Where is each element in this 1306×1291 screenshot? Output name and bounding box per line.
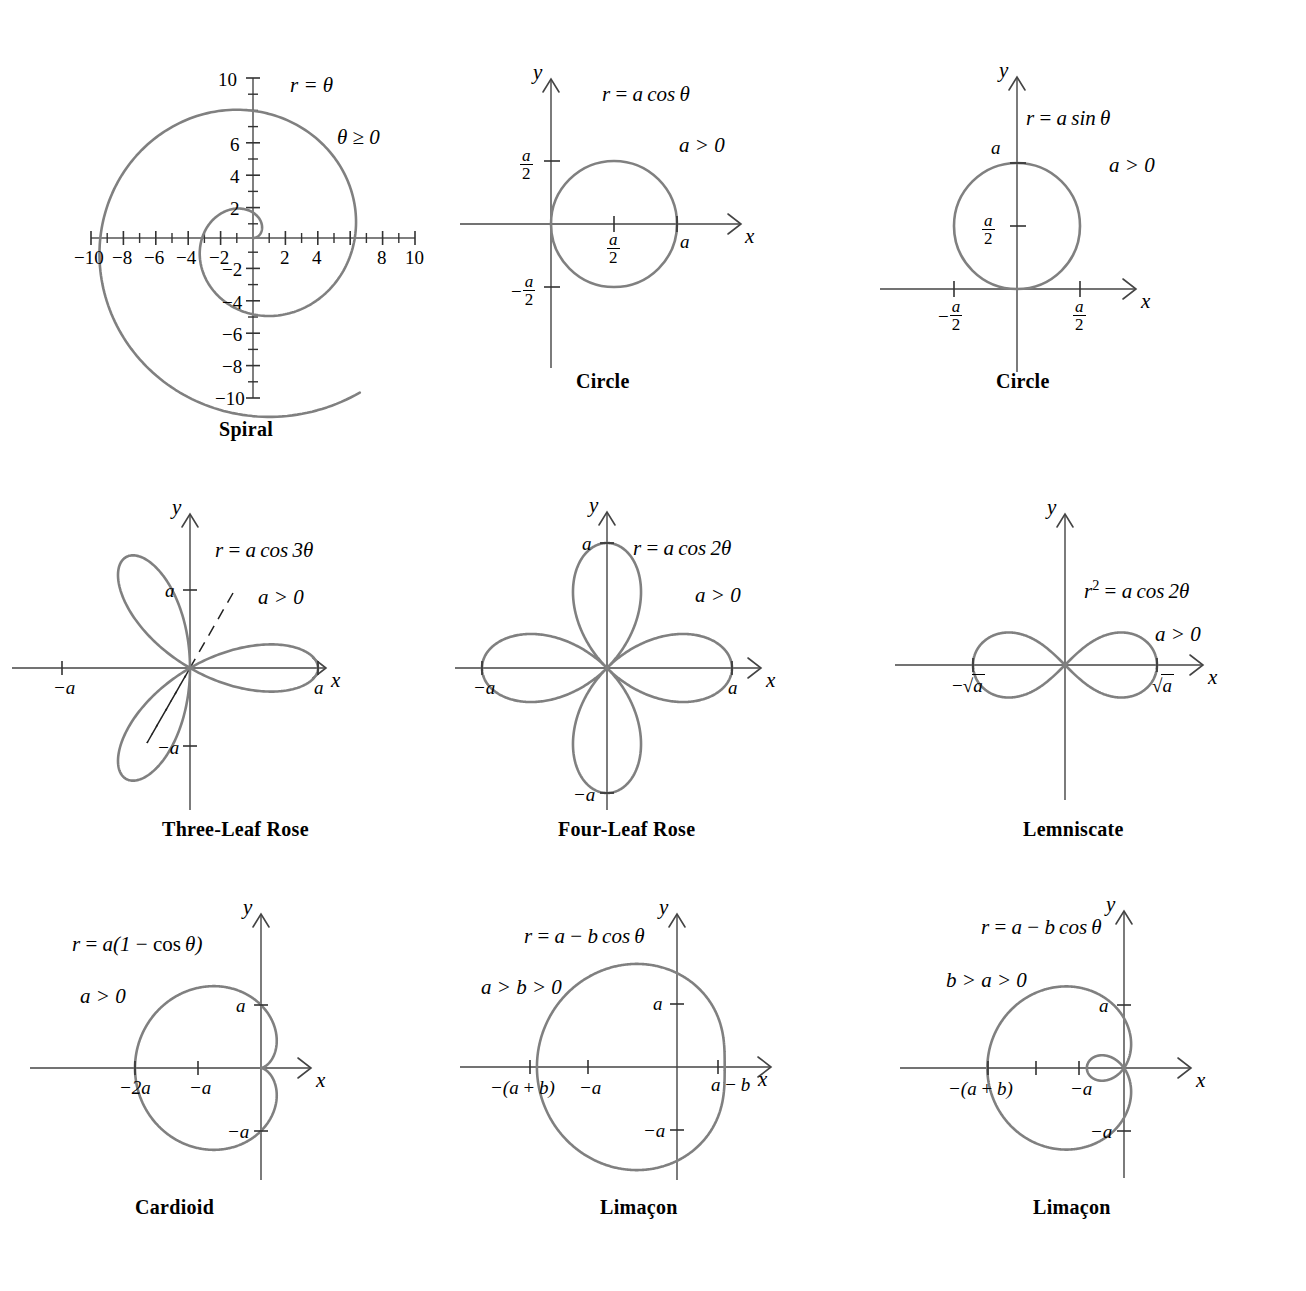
lemniscate-label-neg-sqrt-a: −√a bbox=[952, 676, 985, 695]
cardioid-label-neg-a-y: −a bbox=[227, 1122, 249, 1141]
limacon1-label-neg-a-y: −a bbox=[643, 1121, 665, 1140]
limacon1-x-axis-label: x bbox=[758, 1069, 767, 1090]
spiral-ytick--2: −2 bbox=[222, 260, 242, 279]
limacon1-condition: a > b > 0 bbox=[481, 977, 562, 998]
cardioid-label-a-y: a bbox=[236, 996, 246, 1015]
lemniscate-caption: Lemniscate bbox=[1023, 818, 1124, 841]
limacon1-label-neg-a-plus-b: −(a + b) bbox=[490, 1078, 555, 1097]
circle-sin-y-axis-label: y bbox=[999, 60, 1008, 81]
spiral-ytick-4: 4 bbox=[230, 167, 240, 186]
circle-sin-label-a-over-2: a2 bbox=[982, 213, 995, 249]
circle-cos-label-a-over-2-top: a2 bbox=[520, 148, 533, 184]
circle-sin-x-axis-label: x bbox=[1141, 291, 1150, 312]
panel-three-leaf-rose: y x a −a −a a r = a cos 3θ a > 0 Three-L… bbox=[0, 450, 440, 890]
rose3-equation: r = a cos 3θ bbox=[215, 540, 313, 561]
spiral-ytick-2: 2 bbox=[230, 199, 240, 218]
cardioid-label-neg-2a: −2a bbox=[119, 1078, 151, 1097]
lemniscate-condition: a > 0 bbox=[1155, 624, 1201, 645]
limacon1-equation: r = a − b cos θ bbox=[524, 926, 645, 947]
circle-cos-y-axis-label: y bbox=[533, 62, 542, 83]
spiral-ytick--10: −10 bbox=[215, 389, 245, 408]
panel-spiral: −10 −8 −6 −4 −2 2 4 8 10 10 6 4 2 −2 −4 … bbox=[0, 0, 440, 450]
rose3-label-neg-a-y: −a bbox=[157, 738, 179, 757]
circle-sin-label-a-top: a bbox=[991, 138, 1001, 157]
limacon2-x-axis-label: x bbox=[1196, 1070, 1205, 1091]
cardioid-plot bbox=[0, 890, 440, 1291]
cardioid-x-axis-label: x bbox=[316, 1070, 325, 1091]
cardioid-y-axis-label: y bbox=[243, 897, 252, 918]
rose4-x-axis-label: x bbox=[766, 670, 775, 691]
cardioid-equation: r = a(1 − cos θ) bbox=[72, 934, 202, 955]
panel-circle-sin: y x a a2 −a2 a2 r = a sin θ a > 0 Circle bbox=[860, 0, 1306, 450]
cardioid-caption: Cardioid bbox=[135, 1196, 214, 1219]
rose3-x-axis-label: x bbox=[331, 670, 340, 691]
spiral-xtick-8: 8 bbox=[377, 248, 387, 267]
circle-cos-equation: r = a cos θ bbox=[602, 84, 690, 105]
spiral-xtick--8: −8 bbox=[112, 248, 132, 267]
limacon1-label-a-y: a bbox=[653, 994, 663, 1013]
panel-cardioid: y x −2a −a a −a r = a(1 − cos θ) a > 0 C… bbox=[0, 890, 440, 1291]
spiral-ytick--8: −8 bbox=[222, 357, 242, 376]
rose3-condition: a > 0 bbox=[258, 587, 304, 608]
circle-sin-label-a-over-2-x: a2 bbox=[1073, 299, 1086, 335]
limacon1-label-neg-a: −a bbox=[579, 1078, 601, 1097]
limacon1-y-axis-label: y bbox=[659, 897, 668, 918]
lemniscate-x-axis-label: x bbox=[1208, 667, 1217, 688]
limacon2-condition: b > a > 0 bbox=[946, 970, 1027, 991]
spiral-xtick--6: −6 bbox=[144, 248, 164, 267]
circle-cos-label-a: a bbox=[680, 232, 690, 251]
spiral-ytick-6: 6 bbox=[230, 135, 240, 154]
rose-petal-1 bbox=[118, 555, 190, 668]
cardioid-label-neg-a: −a bbox=[189, 1078, 211, 1097]
circle-cos-condition: a > 0 bbox=[679, 135, 725, 156]
rose4-label-neg-a-x: −a bbox=[473, 678, 495, 697]
circle-sin-caption: Circle bbox=[996, 370, 1050, 393]
circle-sin-equation: r = a sin θ bbox=[1026, 108, 1110, 129]
rose4-y-axis-label: y bbox=[589, 495, 598, 516]
limacon2-equation: r = a − b cos θ bbox=[981, 917, 1102, 938]
limacon-b-gt-a-plot bbox=[880, 890, 1306, 1291]
spiral-xtick--10: −10 bbox=[74, 248, 104, 267]
circle-sin-plot bbox=[860, 0, 1306, 450]
rose3-label-a-y: a bbox=[165, 581, 175, 600]
rose4-caption: Four-Leaf Rose bbox=[558, 818, 695, 841]
spiral-xtick-4: 4 bbox=[312, 248, 322, 267]
rose-petal-2 bbox=[118, 668, 190, 781]
rose4-label-neg-a-y: −a bbox=[573, 785, 595, 804]
spiral-xtick--4: −4 bbox=[176, 248, 196, 267]
limacon2-label-a-y: a bbox=[1099, 996, 1109, 1015]
spiral-ytick--6: −6 bbox=[222, 325, 242, 344]
rose4-condition: a > 0 bbox=[695, 585, 741, 606]
spiral-ytick--4: −4 bbox=[222, 293, 242, 312]
panel-lemniscate: y x −√a √a r2 = a cos 2θ a > 0 Lemniscat… bbox=[880, 450, 1306, 890]
circle-cos-plot bbox=[440, 0, 860, 450]
circle-cos-label-a-over-2-center: a2 bbox=[607, 232, 620, 268]
panel-limacon-a-gt-b: y x −(a + b) −a a − b a −a r = a − b cos… bbox=[440, 890, 880, 1291]
lemniscate-equation: r2 = a cos 2θ bbox=[1084, 578, 1189, 602]
circle-sin-condition: a > 0 bbox=[1109, 155, 1155, 176]
cardioid-condition: a > 0 bbox=[80, 986, 126, 1007]
circle-cos-x-axis-label: x bbox=[745, 226, 754, 247]
circle-cos-caption: Circle bbox=[576, 370, 630, 393]
circle-sin-label-neg-a-over-2: −a2 bbox=[938, 299, 962, 335]
limacon2-y-axis-label: y bbox=[1106, 894, 1115, 915]
panel-limacon-b-gt-a: y x −(a + b) −a a −a r = a − b cos θ b >… bbox=[880, 890, 1306, 1291]
rose4-label-a-y: a bbox=[582, 534, 592, 553]
limacon1-label-a-minus-b: a − b bbox=[711, 1075, 750, 1094]
spiral-equation: r = θ bbox=[290, 75, 333, 96]
limacon2-label-neg-a: −a bbox=[1070, 1079, 1092, 1098]
rose4-equation: r = a cos 2θ bbox=[633, 538, 731, 559]
panel-four-leaf-rose: y x a −a −a a r = a cos 2θ a > 0 Four-Le… bbox=[440, 450, 880, 890]
circle-cos-label-neg-a-over-2: −a2 bbox=[511, 274, 535, 310]
spiral-condition: θ ≥ 0 bbox=[337, 127, 380, 148]
spiral-caption: Spiral bbox=[219, 418, 273, 441]
limacon1-caption: Limaçon bbox=[600, 1196, 678, 1219]
limacon2-label-neg-a-y: −a bbox=[1090, 1122, 1112, 1141]
lemniscate-label-sqrt-a: √a bbox=[1152, 676, 1174, 695]
rose4-label-a-x: a bbox=[728, 678, 738, 697]
rose3-label-neg-a-x: −a bbox=[53, 678, 75, 697]
limacon2-caption: Limaçon bbox=[1033, 1196, 1111, 1219]
rose3-y-axis-label: y bbox=[172, 497, 181, 518]
panel-circle-cos: y x a2 −a2 a2 a r = a cos θ a > 0 Circle bbox=[440, 0, 860, 450]
lemniscate-y-axis-label: y bbox=[1047, 497, 1056, 518]
